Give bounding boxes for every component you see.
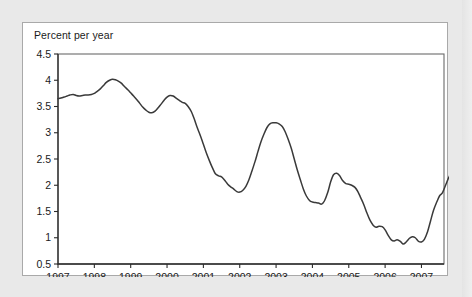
x-tick-label: 1998 <box>83 271 107 277</box>
y-tick-label: 0.5 <box>36 258 51 270</box>
x-tick-label: 2005 <box>337 271 361 277</box>
x-tick-label: 1997 <box>46 271 70 277</box>
y-tick-label: 1.5 <box>36 205 51 217</box>
figure-card: Percent per year 0.511.522.533.544.5 199… <box>22 22 448 276</box>
y-tick-label: 2 <box>45 179 51 191</box>
y-tick-label: 1 <box>45 231 51 243</box>
x-tick-label: 2002 <box>228 271 252 277</box>
x-tick-label: 1999 <box>119 271 143 277</box>
x-axis-tick-labels: 1997199819992000200120022003200420052006… <box>46 271 433 277</box>
x-tick-label: 2001 <box>192 271 216 277</box>
x-tick-label: 2003 <box>264 271 288 277</box>
y-tick-label: 4 <box>45 74 51 86</box>
x-tick-label: 2004 <box>301 271 325 277</box>
screenshot-root: Percent per year 0.511.522.533.544.5 199… <box>0 0 472 297</box>
x-tick-label: 2000 <box>155 271 179 277</box>
line-chart: 0.511.522.533.544.5 19971998199920002001… <box>23 23 449 277</box>
x-tick-label: 2006 <box>373 271 397 277</box>
y-tick-label: 2.5 <box>36 153 51 165</box>
x-tick-label: 2007 <box>410 271 434 277</box>
y-tick-label: 3 <box>45 126 51 138</box>
series-line-percent-per-year <box>58 79 449 244</box>
y-axis-tick-labels: 0.511.522.533.544.5 <box>36 48 51 270</box>
y-tick-label: 3.5 <box>36 100 51 112</box>
y-tick-label: 4.5 <box>36 48 51 60</box>
